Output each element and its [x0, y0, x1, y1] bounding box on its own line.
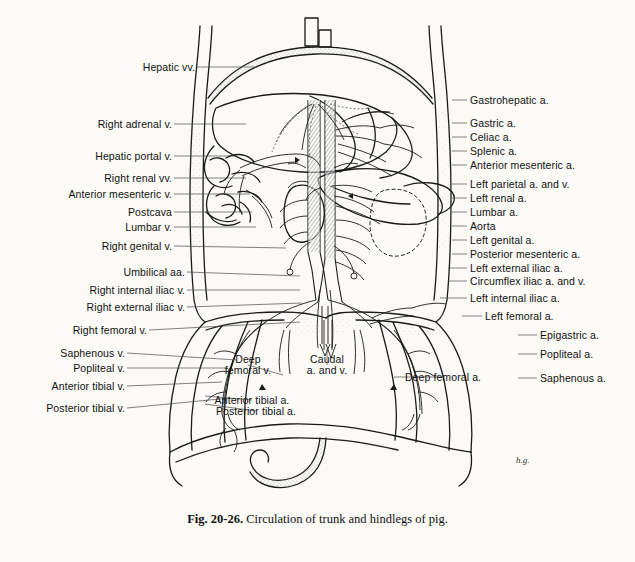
label-hepatic-vv: Hepatic vv.	[0, 62, 195, 73]
label-aorta: Aorta	[470, 221, 496, 232]
label-postcava: Postcava	[0, 207, 172, 218]
label-epigastric-a: Epigastric a.	[540, 330, 599, 341]
label-left-internal-iliac-a: Left internal iliac a.	[470, 293, 560, 304]
label-posterior-tibial-a: Posterior tibial a.	[216, 406, 296, 417]
label-posterior-tibial-v: Posterior tibial v.	[0, 403, 125, 414]
label-caudal-a-and-v: Caudala. and v.	[307, 354, 347, 376]
label-circumflex-iliac-a-and-v: Circumflex iliac a. and v.	[470, 276, 586, 287]
label-splenic-a: Splenic a.	[470, 146, 517, 157]
figure-caption: Fig. 20-26. Circulation of trunk and hin…	[0, 512, 635, 527]
label-right-external-iliac-v: Right external iliac v.	[0, 302, 185, 313]
label-umbilical-aa: Umbilical aa.	[0, 267, 185, 278]
label-hepatic-portal-v: Hepatic portal v.	[0, 151, 172, 162]
label-right-internal-iliac-v: Right internal iliac v.	[0, 285, 185, 296]
figure-number: Fig. 20-26.	[187, 512, 243, 526]
label-popliteal-a: Popliteal a.	[540, 349, 593, 360]
label-right-genital-v: Right genital v.	[0, 241, 172, 252]
label-lumbar-a: Lumbar a.	[470, 207, 518, 218]
label-gastrohepatic-a: Gastrohepatic a.	[470, 95, 549, 106]
great-vessels	[308, 100, 342, 302]
label-left-external-iliac-a: Left external iliac a.	[470, 263, 563, 274]
label-right-femoral-v: Right femoral v.	[0, 325, 147, 336]
label-saphenous-v: Saphenous v.	[0, 348, 125, 359]
label-gastric-a: Gastric a.	[470, 118, 516, 129]
label-line-1: Deep femoral a.	[405, 371, 481, 383]
artist-signature: h.g.	[516, 455, 530, 465]
label-right-renal-vv: Right renal vv.	[0, 173, 172, 184]
label-deep-femoral-a: Deep femoral a.	[405, 372, 481, 383]
label-left-parietal-a-and-v: Left parietal a. and v.	[470, 179, 570, 190]
label-anterior-mesenteric-v: Anterior mesenteric v.	[0, 189, 172, 200]
label-deep-femoral-v: Deepfemoral v.	[225, 354, 271, 376]
label-line-1: Posterior tibial a.	[216, 405, 296, 417]
label-lumbar-v: Lumbar v.	[0, 222, 172, 233]
label-anterior-tibial-v: Anterior tibial v.	[0, 381, 125, 392]
figure-caption-text: Circulation of trunk and hindlegs of pig…	[243, 512, 448, 526]
label-anterior-mesenteric-a: Anterior mesenteric a.	[470, 160, 575, 171]
label-popliteal-v: Popliteal v.	[0, 363, 125, 374]
label-line-2: a. and v.	[307, 365, 347, 376]
label-saphenous-a: Saphenous a.	[540, 373, 606, 384]
label-left-renal-a: Left renal a.	[470, 193, 527, 204]
label-celiac-a: Celiac a.	[470, 132, 512, 143]
label-left-femoral-a: Left femoral a.	[485, 311, 554, 322]
leader-right-femoral-v	[149, 322, 300, 330]
label-right-adrenal-v: Right adrenal v.	[0, 119, 172, 130]
label-left-genital-a: Left genital a.	[470, 235, 535, 246]
leader-umbilical-aa	[187, 272, 300, 276]
label-posterior-mesenteric-a: Posterior mesenteric a.	[470, 249, 580, 260]
figure-page: Hepatic vv.Right adrenal v.Hepatic porta…	[0, 0, 635, 562]
leader-saphenous-v	[127, 353, 237, 360]
label-line-2: femoral v.	[225, 365, 271, 376]
leader-right-external-iliac-v	[187, 303, 302, 307]
